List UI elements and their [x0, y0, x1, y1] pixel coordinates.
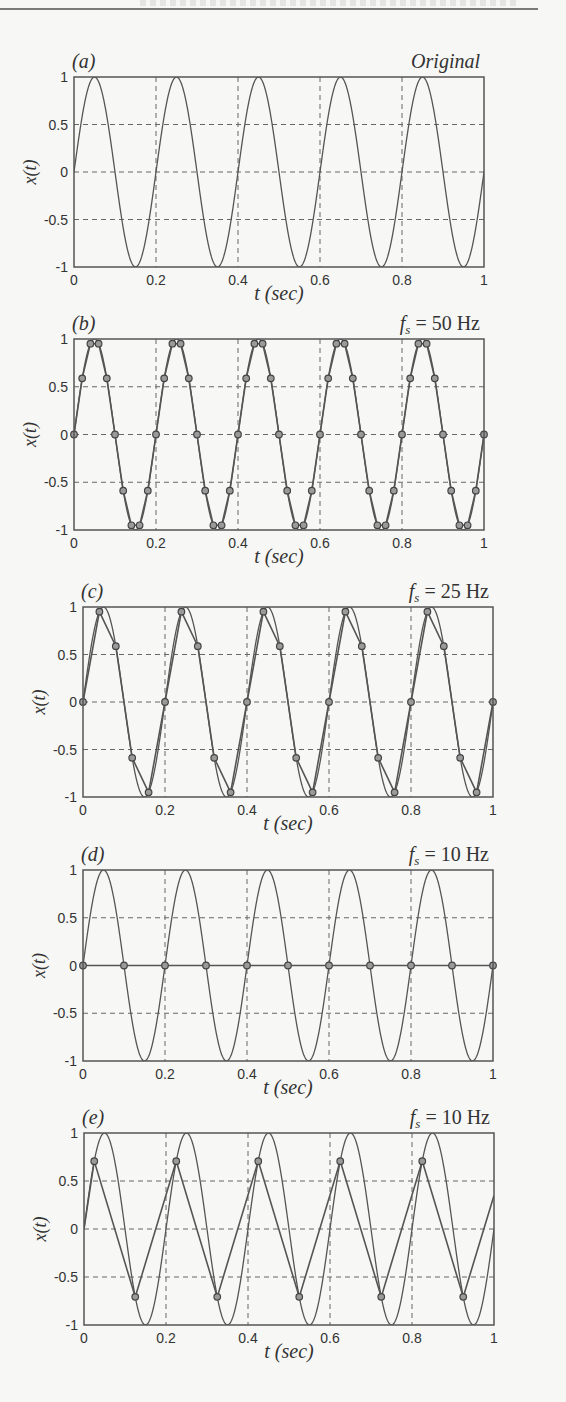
- sample-marker: [277, 643, 284, 650]
- sampling-rate-title: fs = 10 Hz: [410, 1106, 490, 1131]
- y-tick-label: -0.5: [53, 742, 77, 758]
- x-tick-label: 1: [480, 272, 488, 288]
- sampling-rate-title: fs = 50 Hz: [400, 312, 480, 337]
- x-tick-label: 0.2: [155, 1066, 175, 1082]
- x-tick-label: 0: [80, 1330, 88, 1346]
- sample-marker: [419, 1158, 426, 1165]
- y-tick-label: -0.5: [44, 212, 68, 228]
- x-tick-label: 0.2: [156, 1330, 176, 1346]
- sample-marker: [293, 755, 300, 762]
- sample-marker: [194, 431, 201, 438]
- sample-marker: [260, 608, 267, 615]
- sample-marker: [128, 522, 135, 529]
- y-tick-label: -0.5: [44, 474, 68, 490]
- sample-marker: [473, 487, 480, 494]
- y-tick-label: -1: [66, 1317, 79, 1333]
- sample-marker: [121, 962, 128, 969]
- sample-marker: [367, 962, 374, 969]
- continuous-signal-line: [74, 77, 484, 267]
- x-tick-label: 1: [489, 1066, 497, 1082]
- sample-marker: [391, 487, 398, 494]
- sample-marker: [415, 340, 422, 347]
- sample-marker: [211, 755, 218, 762]
- x-tick-label: 0.4: [237, 802, 257, 818]
- y-tick-label: 0.5: [59, 1173, 79, 1189]
- x-tick-label: 0: [79, 1066, 87, 1082]
- sample-marker: [399, 431, 406, 438]
- sample-marker: [79, 375, 86, 382]
- sample-marker: [227, 789, 234, 796]
- chart-panel-b: 10.50-0.5-100.20.40.60.81t (sec)x(t)(b)f…: [20, 312, 488, 568]
- sample-marker: [153, 431, 160, 438]
- x-tick-label: 0.8: [401, 802, 421, 818]
- sample-marker: [162, 699, 169, 706]
- sample-marker: [441, 643, 448, 650]
- sample-marker: [203, 962, 210, 969]
- sample-marker: [374, 522, 381, 529]
- sample-marker: [120, 487, 127, 494]
- sampling-figure: 10.50-0.5-100.20.40.60.81t (sec)x(t)(a)O…: [0, 0, 566, 1402]
- sample-marker: [259, 340, 266, 347]
- sample-marker: [227, 487, 234, 494]
- y-tick-label: 1: [70, 1125, 78, 1141]
- sample-marker: [202, 487, 209, 494]
- sample-marker: [96, 608, 103, 615]
- sample-marker: [350, 375, 357, 382]
- sample-marker: [432, 375, 439, 382]
- x-axis-label: t (sec): [264, 1340, 314, 1363]
- sample-marker: [244, 699, 251, 706]
- x-tick-label: 1: [489, 802, 497, 818]
- sample-marker: [448, 487, 455, 494]
- sample-marker: [382, 522, 389, 529]
- y-tick-label: -1: [65, 1053, 78, 1069]
- sample-marker: [178, 608, 185, 615]
- x-tick-label: 0.4: [228, 272, 248, 288]
- panel-label: (b): [72, 312, 96, 335]
- y-tick-label: -1: [56, 522, 69, 538]
- sample-marker: [251, 340, 258, 347]
- sample-marker: [132, 1294, 139, 1301]
- x-tick-label: 0: [70, 272, 78, 288]
- sample-marker: [342, 608, 349, 615]
- x-tick-label: 1: [490, 1330, 498, 1346]
- sample-marker: [169, 340, 176, 347]
- sample-marker: [309, 487, 316, 494]
- x-tick-label: 0.4: [238, 1330, 258, 1346]
- y-tick-label: 1: [60, 69, 68, 85]
- chart-panel-d: 10.50-0.5-100.20.40.60.81t (sec)x(t)(d)f…: [29, 843, 497, 1099]
- y-axis-label: x(t): [29, 690, 50, 716]
- sample-marker: [341, 340, 348, 347]
- sample-marker: [91, 1158, 98, 1165]
- panel-label: (a): [72, 50, 96, 73]
- sample-marker: [177, 340, 184, 347]
- sample-marker: [145, 789, 152, 796]
- panel-label: (c): [81, 580, 104, 603]
- x-tick-label: 0: [79, 802, 87, 818]
- y-tick-label: 0: [69, 958, 77, 974]
- x-axis-label: t (sec): [254, 545, 304, 568]
- panel-label: (e): [82, 1106, 105, 1129]
- y-tick-label: -1: [65, 789, 78, 805]
- y-tick-label: 0.5: [49, 379, 69, 395]
- x-tick-label: 0.8: [401, 1066, 421, 1082]
- sample-marker: [337, 1158, 344, 1165]
- chart-panel-e: 10.50-0.5-100.20.40.60.81t (sec)x(t)(e)f…: [30, 1106, 498, 1363]
- y-axis-label: x(t): [30, 1217, 51, 1243]
- sample-marker: [136, 522, 143, 529]
- sample-marker: [408, 699, 415, 706]
- sample-marker: [424, 608, 431, 615]
- sample-marker: [359, 643, 366, 650]
- y-tick-label: 0.5: [58, 910, 78, 926]
- y-axis-label: x(t): [29, 953, 50, 979]
- sampled-signal-line: [83, 612, 493, 793]
- x-axis-label: t (sec): [263, 812, 313, 835]
- sample-marker: [186, 375, 193, 382]
- x-tick-label: 0.6: [310, 535, 330, 551]
- sample-marker: [235, 431, 242, 438]
- sample-marker: [244, 962, 251, 969]
- sample-marker: [333, 340, 340, 347]
- sample-marker: [210, 522, 217, 529]
- y-tick-label: 1: [60, 331, 68, 347]
- x-axis-label: t (sec): [263, 1076, 313, 1099]
- sample-marker: [457, 755, 464, 762]
